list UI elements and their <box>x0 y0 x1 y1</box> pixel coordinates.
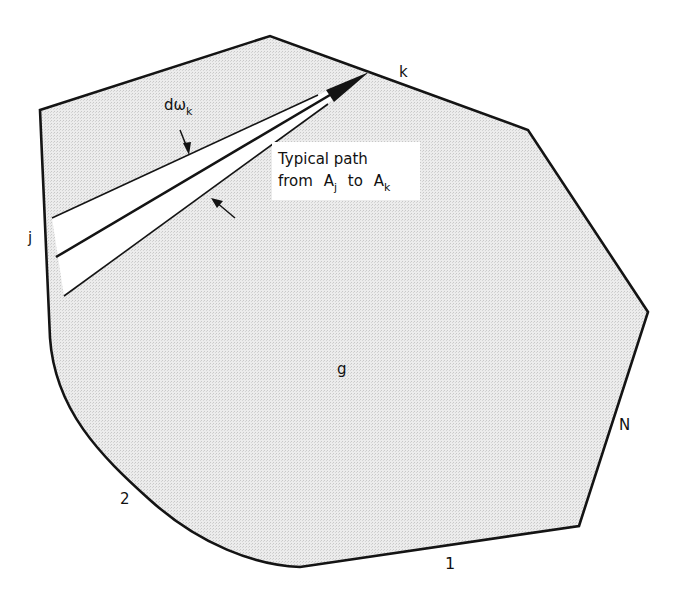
label-1: 1 <box>445 554 455 573</box>
label-N: N <box>619 416 630 434</box>
label-k: k <box>399 63 408 81</box>
enclosure-boundary <box>40 36 648 567</box>
enclosure-diagram: Typical path from Aj to Ak dωk j k g N 2… <box>0 0 678 599</box>
label-2: 2 <box>120 490 130 508</box>
region-label-g: g <box>337 360 347 378</box>
label-j: j <box>27 229 32 247</box>
path-label-line1: Typical path <box>277 150 368 168</box>
